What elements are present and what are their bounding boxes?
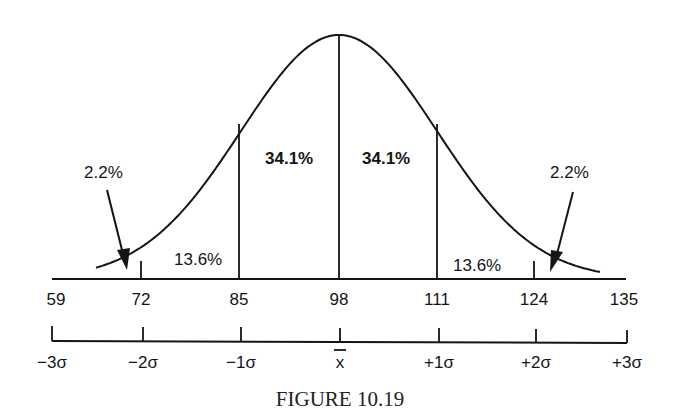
right-band-percent: 13.6% <box>453 256 501 275</box>
right-center-percent: 34.1% <box>362 149 410 168</box>
sigma-plus-1: +1σ <box>424 353 454 372</box>
sigma-minus-2: −2σ <box>128 353 158 372</box>
x-tick-124: 124 <box>520 290 548 309</box>
left-band-percent: 13.6% <box>174 250 222 269</box>
x-tick-98: 98 <box>330 290 349 309</box>
x-tick-85: 85 <box>230 290 249 309</box>
sigma-axis-labels: −3σ −2σ −1σ x +1σ +2σ +3σ <box>37 350 642 372</box>
sigma-axis <box>52 326 627 343</box>
left-tail-arrow-icon <box>107 190 130 270</box>
x-tick-135: 135 <box>610 290 638 309</box>
sigma-mean-xbar: x <box>334 350 346 372</box>
value-axis-labels: 59 72 85 98 111 124 135 <box>47 290 639 309</box>
x-tick-72: 72 <box>132 290 151 309</box>
figure-caption: FIGURE 10.19 <box>276 387 404 411</box>
x-tick-59: 59 <box>47 290 66 309</box>
sigma-plus-3: +3σ <box>612 353 642 372</box>
x-tick-111: 111 <box>424 290 450 309</box>
sigma-plus-2: +2σ <box>521 353 551 372</box>
svg-text:x: x <box>336 353 345 372</box>
sigma-minus-3: −3σ <box>37 353 67 372</box>
normal-distribution-figure: 2.2% 13.6% 34.1% 34.1% 13.6% 2.2% 59 72 … <box>0 0 675 418</box>
left-tail-percent: 2.2% <box>84 163 123 182</box>
bell-curve <box>96 35 600 272</box>
right-tail-percent: 2.2% <box>550 163 589 182</box>
left-center-percent: 34.1% <box>265 149 313 168</box>
sigma-minus-1: −1σ <box>226 353 256 372</box>
